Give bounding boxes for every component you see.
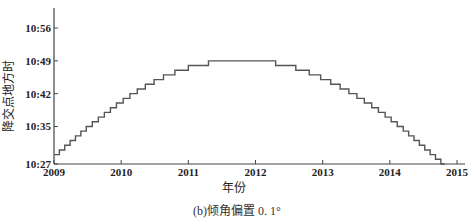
y-tick-label: 10:56 <box>25 22 51 34</box>
y-tick-label: 10:42 <box>25 88 51 100</box>
step-line-chart: 10:2710:3510:4210:4910:56200920102011201… <box>0 0 474 200</box>
y-tick-label: 10:49 <box>25 55 51 67</box>
x-tick-label: 2013 <box>312 166 335 178</box>
figure-caption: (b)倾角偏置 0. 1° <box>0 201 474 219</box>
x-tick-label: 2009 <box>43 166 66 178</box>
y-axis-title: 降交点地方时 <box>1 60 16 132</box>
x-axis-title: 年份 <box>222 181 246 195</box>
x-tick-label: 2011 <box>178 166 199 178</box>
x-tick-label: 2012 <box>245 166 268 178</box>
x-tick-label: 2010 <box>110 166 133 178</box>
x-tick-label: 2015 <box>446 166 469 178</box>
x-tick-label: 2014 <box>379 166 402 178</box>
y-tick-label: 10:35 <box>25 120 51 132</box>
step-line <box>54 61 445 164</box>
